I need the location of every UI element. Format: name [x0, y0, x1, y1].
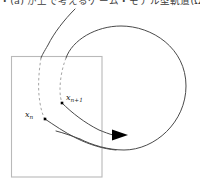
outgoing-arc-from-xn [45, 119, 116, 150]
subscript-one: 1 [79, 97, 83, 103]
label-x-n-subscript: n [30, 114, 34, 120]
figure-container: ・(a) が上で考えるゲーム・モデル型軌道(Ω) xn xn+1 [0, 0, 200, 194]
label-x-n-plus-1: xn+1 [66, 93, 83, 103]
diagram-canvas [0, 0, 200, 194]
dashed-segment-left [39, 58, 45, 119]
label-x-n-plus-1-subscript: n+1 [71, 97, 84, 103]
outgoing-arc-from-xn1 [62, 103, 113, 135]
point-xn1 [61, 102, 64, 105]
point-xn [44, 118, 47, 121]
label-x-n: xn [25, 110, 33, 120]
large-orbit-curve [66, 26, 186, 150]
direction-arrowhead [112, 130, 128, 141]
